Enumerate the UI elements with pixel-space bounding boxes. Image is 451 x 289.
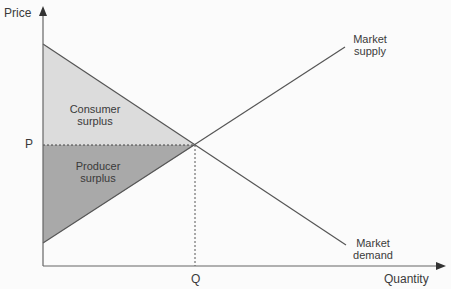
consumer-surplus-label: Consumer surplus [55,103,135,127]
supply-curve-label: Market supply [348,33,392,57]
quantity-label: Q [191,273,200,285]
price-label: P [25,138,33,150]
x-axis-arrow-icon [436,262,446,270]
y-axis-arrow-icon [39,6,47,16]
demand-curve-label: Market demand [350,237,396,261]
surplus-diagram: Price Quantity P Q Consumer surplus Prod… [0,0,451,289]
x-axis-label: Quantity [384,273,429,285]
y-axis-label: Price [4,7,31,19]
producer-surplus-label: Producer surplus [58,160,138,184]
